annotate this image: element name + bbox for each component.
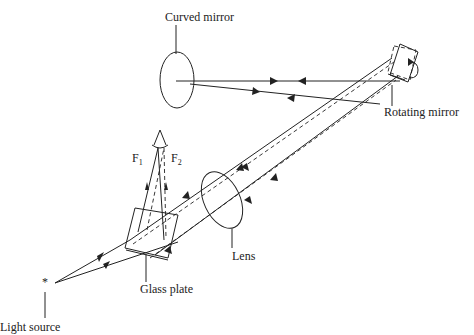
f2-label: F2 xyxy=(171,151,182,167)
arrow-right-icon xyxy=(270,77,278,85)
eye-icon xyxy=(152,130,168,148)
light-source-symbol: * xyxy=(42,275,48,289)
eye-rays: F1 F2 xyxy=(132,148,182,240)
lens-label: Lens xyxy=(232,249,256,263)
arrow-down-left-icon xyxy=(244,196,252,204)
rotating-mirror-label: Rotating mirror xyxy=(384,105,459,119)
optical-diagram: Curved mirror Rotating mirror L xyxy=(0,0,474,335)
glass-plate-label: Glass plate xyxy=(140,282,193,296)
arrow-up-right-icon xyxy=(182,191,190,199)
arrow-up-icon xyxy=(145,182,149,190)
arrow-left-icon xyxy=(287,94,295,102)
arrow-up-right-icon xyxy=(270,173,278,181)
f1-label: F1 xyxy=(132,151,143,167)
arrow-up-right-icon xyxy=(97,252,104,262)
curved-mirror-label: Curved mirror xyxy=(165,10,234,24)
upper-beams xyxy=(176,77,400,104)
light-source-label: Light source xyxy=(0,320,60,334)
curved-mirror: Curved mirror xyxy=(160,10,234,108)
arrow-left-icon xyxy=(298,77,306,85)
lens: Lens xyxy=(193,165,256,263)
